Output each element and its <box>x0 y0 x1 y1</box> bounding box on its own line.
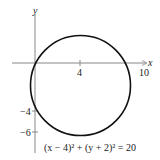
equation-label: (x − 4)² + (y + 2)² = 20 <box>44 142 136 154</box>
circle-curve <box>31 36 131 136</box>
circle-graph: y x 4 10 −4 −6 (x − 4)² + (y + 2)² = 20 <box>0 0 160 160</box>
x-tick-label-10: 10 <box>139 67 149 78</box>
y-tick-label-neg6: −6 <box>20 127 31 138</box>
y-tick-label-neg4: −4 <box>20 106 31 117</box>
x-tick-label-4: 4 <box>77 67 82 78</box>
y-axis-label: y <box>32 5 38 16</box>
